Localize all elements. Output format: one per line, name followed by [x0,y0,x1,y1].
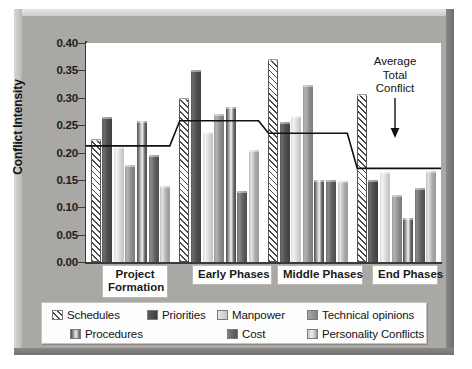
y-axis-tick-mark [78,207,85,208]
plot-area: Average Total Conflict [86,43,441,262]
y-axis-tick-label: 0.00 [34,256,78,268]
y-axis-tick-label: 0.15 [34,174,78,186]
legend-item-label: Procedures [85,328,143,340]
y-axis-tick-label: 0.40 [34,37,78,49]
legend-item-label: Priorities [162,309,206,321]
legend-item[interactable]: Priorities [147,305,206,324]
legend-item-label: Cost [242,328,265,340]
legend-row-bottom: ProceduresCostPersonality Conflicts [42,324,426,343]
dark-highlight-swatch [70,329,81,339]
legend-item[interactable]: Manpower [217,305,285,324]
y-axis-tick-mark [78,235,85,236]
legend-item[interactable]: Personality Conflicts [307,324,424,343]
light-gray-swatch [217,310,228,320]
annotation-line-1: Average [355,55,435,69]
legend-item[interactable]: Technical opinions [307,305,414,324]
legend-item-label: Schedules [67,309,120,321]
hatched-swatch [52,310,63,320]
y-axis-tick-label: 0.35 [34,64,78,76]
y-axis-tick-mark [78,43,85,44]
legend-item[interactable]: Schedules [52,305,120,324]
dark-gray-swatch [147,310,158,320]
y-axis-tick-mark [78,98,85,99]
y-axis-tick-mark [78,70,85,71]
panel-bottom-shadow [14,348,454,355]
x-axis-line [85,262,442,264]
legend-row-top: SchedulesPrioritiesManpowerTechnical opi… [42,305,426,324]
x-axis-category-label: Project Formation [102,265,168,298]
chart-legend: SchedulesPrioritiesManpowerTechnical opi… [41,302,427,344]
medium-gray-swatch [227,329,238,339]
y-axis-tick-mark [78,125,85,126]
annotation-line-3: Conflict [355,82,435,96]
legend-item-label: Personality Conflicts [322,328,424,340]
x-axis-category-label: Middle Phases [277,265,363,285]
y-axis-tick-label: 0.30 [34,92,78,104]
legend-item-label: Manpower [232,309,285,321]
mid-gray-swatch [307,310,318,320]
down-arrow-icon [388,98,402,138]
light-hatch-swatch [307,329,318,339]
y-axis-title: Conflict Intensity [11,42,25,212]
average-total-conflict-annotation: Average Total Conflict [355,55,435,138]
y-axis-tick-mark [78,153,85,154]
panel-top-bevel [14,9,454,16]
y-axis-tick-label: 0.25 [34,119,78,131]
panel-right-shadow [446,9,454,355]
y-axis-tick-label: 0.10 [34,201,78,213]
annotation-line-2: Total [355,69,435,83]
y-axis-tick-label: 0.20 [34,147,78,159]
y-axis-tick-label: 0.05 [34,229,78,241]
legend-item[interactable]: Cost [227,324,265,343]
x-axis-category-label: End Phases [372,265,438,285]
y-axis-tick-mark [78,262,85,263]
legend-item-label: Technical opinions [322,309,414,321]
x-axis-category-label: Early Phases [192,265,272,285]
legend-item[interactable]: Procedures [70,324,143,343]
y-axis-tick-mark [78,180,85,181]
